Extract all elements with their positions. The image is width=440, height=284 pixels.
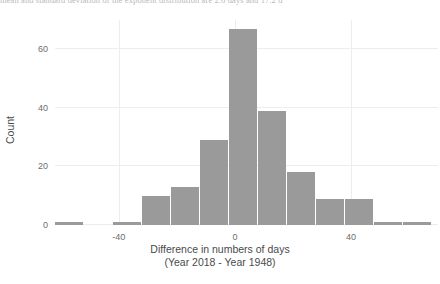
histogram-bar: [345, 199, 373, 225]
histogram-bar: [171, 187, 199, 225]
histogram-bar: [200, 140, 228, 225]
y-axis-label: Count: [4, 116, 16, 144]
caption-text: mean and standard deviation of the expon…: [0, 0, 440, 5]
plot-area: 0204060 -40040: [55, 20, 438, 225]
x-axis-label-line2: (Year 2018 - Year 1948): [0, 256, 440, 269]
histogram-bar: [287, 172, 315, 225]
gridline-x-40: [351, 20, 352, 225]
y-tick-label-40: 40: [38, 103, 48, 113]
histogram-figure: mean and standard deviation of the expon…: [0, 0, 440, 284]
histogram-bar: [229, 29, 257, 225]
histogram-bar: [55, 222, 83, 225]
histogram-bar: [142, 196, 170, 225]
histogram-bar: [113, 222, 141, 225]
clipped-caption-strip: mean and standard deviation of the expon…: [0, 0, 440, 9]
y-tick-label-0: 0: [43, 220, 48, 230]
gridline-x--40: [119, 20, 120, 225]
histogram-bar: [258, 111, 286, 225]
x-tick-label-0: 0: [232, 232, 237, 242]
histogram-bar: [316, 199, 344, 225]
x-axis-label: Difference in numbers of days (Year 2018…: [0, 243, 440, 269]
histogram-bar: [374, 222, 402, 225]
y-tick-label-20: 20: [38, 161, 48, 171]
x-tick-label--40: -40: [112, 232, 125, 242]
x-axis-label-line1: Difference in numbers of days: [0, 243, 440, 256]
x-tick-label-40: 40: [346, 232, 356, 242]
histogram-bar: [403, 222, 431, 225]
y-tick-label-60: 60: [38, 44, 48, 54]
